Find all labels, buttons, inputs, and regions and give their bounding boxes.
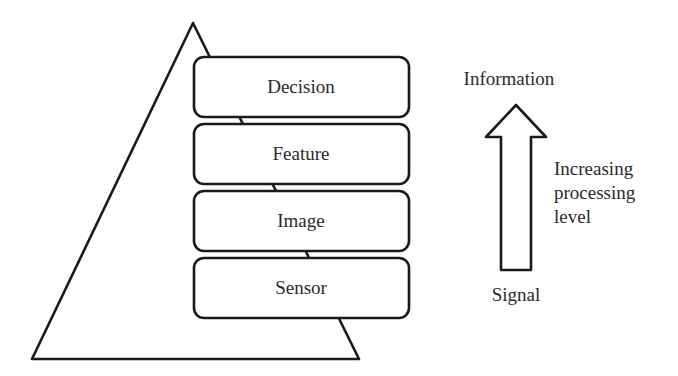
arrow-bottom-label: Signal xyxy=(492,284,541,305)
layer-label: Image xyxy=(277,210,324,231)
arrow-side-label-line-3: level xyxy=(554,206,591,227)
up-arrow-icon xyxy=(486,105,546,270)
layer-label: Decision xyxy=(267,76,335,97)
layer-feature: Feature xyxy=(194,124,409,184)
arrow-top-label: Information xyxy=(464,68,555,89)
arrow-side-label-line-2: processing xyxy=(554,182,636,203)
layer-label: Feature xyxy=(273,143,330,164)
fusion-levels-diagram: Decision Feature Image Sensor Informatio… xyxy=(0,0,678,376)
layer-sensor: Sensor xyxy=(194,258,409,318)
layer-decision: Decision xyxy=(194,57,409,117)
layer-image: Image xyxy=(194,191,409,251)
layer-label: Sensor xyxy=(275,277,327,298)
arrow-side-label-line-1: Increasing xyxy=(554,158,634,179)
